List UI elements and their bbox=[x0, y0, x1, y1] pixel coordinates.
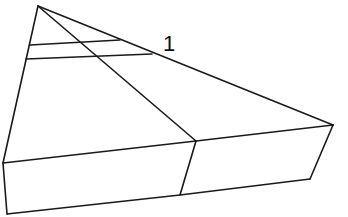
left-vertical-edge bbox=[3, 163, 7, 214]
middle-vertical-edge bbox=[180, 141, 196, 195]
right-vertical-edge bbox=[310, 125, 333, 179]
apex-diagonal bbox=[38, 6, 196, 141]
band-line-lower bbox=[26, 54, 152, 59]
top-right-edge bbox=[38, 6, 333, 125]
left-edge bbox=[3, 6, 38, 163]
band-line-upper bbox=[30, 40, 120, 45]
bottom-edge bbox=[7, 179, 310, 214]
wedge-diagram: 1 bbox=[0, 0, 348, 217]
figure-label: 1 bbox=[163, 31, 175, 56]
front-top-edge bbox=[3, 125, 333, 163]
